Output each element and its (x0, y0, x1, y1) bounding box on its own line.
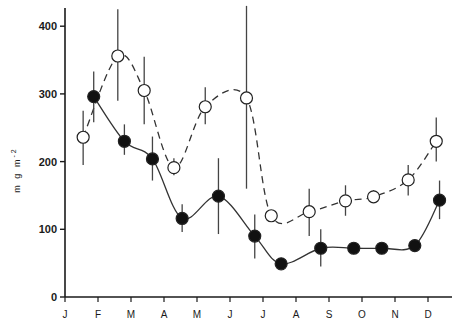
x-tick-label: N (391, 309, 398, 320)
filled-circle-marker (315, 242, 327, 254)
x-tick-label: J (228, 309, 233, 320)
filled-circle-marker (376, 242, 388, 254)
series-open-circles (77, 6, 442, 236)
x-tick-label: J (63, 309, 68, 320)
filled-circle-marker (275, 258, 287, 270)
filled-circle-marker (146, 153, 158, 165)
series-filled-circles (88, 72, 446, 270)
x-tick-label: D (424, 309, 431, 320)
y-ticks: 0100200300400 (39, 20, 65, 303)
open-circle-marker (77, 131, 89, 143)
x-tick-label: O (358, 309, 366, 320)
open-circle-marker (199, 101, 211, 113)
chart-container: 0100200300400 JFMAMJJASOND m g m-2 (0, 0, 460, 333)
y-axis-label-text: m g m-2 (10, 147, 22, 192)
open-circle-marker (168, 162, 180, 174)
open-circle-marker (138, 85, 150, 97)
solid-trend-line (94, 97, 440, 264)
y-tick-label: 400 (39, 20, 57, 32)
open-circle-marker (430, 135, 442, 147)
open-circle-marker (265, 210, 277, 222)
filled-circle-marker (88, 91, 100, 103)
filled-circle-marker (409, 240, 421, 252)
open-circle-marker (303, 206, 315, 218)
filled-circle-marker (118, 135, 130, 147)
open-circle-marker (402, 174, 414, 186)
x-ticks: JFMAMJJASOND (63, 297, 432, 320)
x-tick-label: J (261, 309, 266, 320)
filled-circle-marker (348, 242, 360, 254)
x-tick-label: M (127, 309, 135, 320)
open-circle-marker (368, 191, 380, 203)
y-tick-label: 0 (51, 291, 57, 303)
filled-circle-marker (212, 190, 224, 202)
filled-circle-marker (434, 194, 446, 206)
x-tick-label: A (293, 309, 300, 320)
y-tick-label: 300 (39, 88, 57, 100)
line-chart: 0100200300400 JFMAMJJASOND m g m-2 (0, 0, 460, 333)
y-axis-label: m g m-2 (10, 147, 22, 192)
open-circle-marker (112, 50, 124, 62)
x-tick-label: M (193, 309, 201, 320)
y-tick-label: 200 (39, 156, 57, 168)
filled-circle-marker (249, 230, 261, 242)
open-circle-marker (241, 92, 253, 104)
filled-circle-marker (176, 212, 188, 224)
y-tick-label: 100 (39, 223, 57, 235)
x-tick-label: F (95, 309, 101, 320)
x-tick-label: S (326, 309, 333, 320)
open-circle-marker (340, 195, 352, 207)
dashed-trend-line (83, 54, 436, 223)
x-tick-label: A (161, 309, 168, 320)
